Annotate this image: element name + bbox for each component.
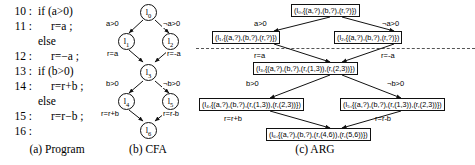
cfa-edge-label-b-gt-0: b>0 [105, 80, 120, 88]
cfa-edge-label-not-a-gt-0: ¬a>0 [162, 20, 181, 28]
arg-edge-label-r-eq-r-minus-b: r=r-b [375, 115, 391, 123]
arg-node-l5[interactable]: (l₅,{(a,?),(b,?),(r,(1,3)),(r,(2,3))}) [340, 98, 445, 111]
arg-node-l0[interactable]: (l₀,{(a,?),(b,?),(r,?)}) [291, 4, 360, 17]
cfa-edge-label-a-gt-0: a>0 [105, 20, 120, 28]
cfa-node-l0[interactable]: l0 [140, 4, 157, 21]
program-line-code: r=r+b ; [51, 79, 83, 94]
cfa-edge-label-r-eq-r-plus-b: r=r+b [100, 110, 120, 118]
program-line-number: 16 : [6, 124, 32, 139]
cfa-node-l1[interactable]: l1 [118, 33, 135, 50]
program-line-number: 12 : [6, 49, 32, 64]
program-line-code: else [38, 94, 56, 109]
caption-arg: (c) ARG [275, 143, 355, 155]
cfa-edge-label-not-b-gt-0: ¬b>0 [162, 80, 181, 88]
cfa-edge-label-r-eq-r-minus-b: r=r-b [162, 110, 180, 118]
program-line-number: 13 : [6, 64, 32, 79]
cfa-edge-label-r-eq-neg-a: r=-a [166, 50, 182, 58]
program-line-code: r=−a ; [51, 49, 79, 64]
program-line-number: 11 : [6, 19, 32, 34]
cfa-edge-label-r-eq-a: r=a [106, 50, 119, 58]
cfa-node-l4[interactable]: l4 [118, 93, 135, 110]
arg-node-l2[interactable]: (l₂,{(a,?),(b,?),(r,?)}) [334, 31, 402, 44]
arg-edge-label-b-gt-0: b>0 [246, 80, 259, 88]
arg-edge-label-r-eq-neg-a: r=-a [381, 52, 395, 60]
arg-node-l6[interactable]: (l₆,{(a,?),(b,?),(r,(4,6)),(r,(5,6))}) [266, 128, 371, 141]
program-line-code: r=r−b ; [51, 109, 83, 124]
program-line-code: r=a ; [51, 19, 73, 34]
program-line-code: if (a>0) [38, 4, 73, 19]
program-line-number: 15 : [6, 109, 32, 124]
figure-program-cfa-arg: 10 : if (a>0) 11 : r=a ; else 12 : r=−a … [0, 0, 475, 165]
arg-edge-label-r-eq-r-plus-b: r=r+b [224, 115, 242, 123]
cfa-node-l2[interactable]: l2 [162, 33, 179, 50]
cfa-node-l5[interactable]: l5 [162, 93, 179, 110]
arg-node-l3[interactable]: (l₃,{(a,?),(b,?),(r,(1,3)),(r,(2,3))}) [253, 62, 358, 75]
arg-graph: (l₀,{(a,?),(b,?),(r,?)}) (l₁,{(a,?),(b,?… [196, 0, 475, 140]
arg-node-l1[interactable]: (l₁,{(a,?),(b,?),(r,?)}) [212, 31, 280, 44]
program-line-code: else [38, 34, 56, 49]
cfa-node-l6[interactable]: l6 [140, 122, 157, 139]
program-line-code: if (b>0) [38, 64, 74, 79]
arg-edge-label-r-eq-a: r=a [254, 52, 265, 60]
arg-edge-label-not-a-gt-0: ¬a>0 [382, 20, 399, 28]
cfa-node-l3[interactable]: l3 [140, 64, 157, 81]
program-listing: 10 : if (a>0) 11 : r=a ; else 12 : r=−a … [0, 0, 100, 140]
cfa-graph: l0 l1 l2 l3 l4 l5 l6 a>0 ¬a>0 r=a r=-a b… [100, 0, 195, 140]
arg-edge-label-a-gt-0: a>0 [254, 20, 267, 28]
program-line-number: 10 : [6, 4, 32, 19]
arg-node-l4[interactable]: (l₄,{(a,?),(b,?),(r,(1,3)),(r,(2,3))}) [199, 98, 304, 111]
caption-cfa: (b) CFA [113, 143, 183, 155]
arg-edge-label-not-b-gt-0: ¬b>0 [387, 80, 404, 88]
caption-program: (a) Program [14, 143, 100, 155]
program-line-number: 14 : [6, 79, 32, 94]
